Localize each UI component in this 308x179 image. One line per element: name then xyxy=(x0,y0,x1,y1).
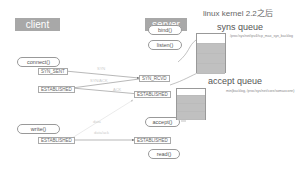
client-state-established: ESTABLISHED xyxy=(38,86,75,93)
connect-call: connect() xyxy=(17,57,60,67)
data-ack-label: data/ack xyxy=(94,130,109,135)
syn-arrow xyxy=(65,71,139,78)
write-call: write() xyxy=(17,124,60,134)
syns-queue xyxy=(196,33,226,73)
synrcvd-connector xyxy=(170,72,200,85)
accept-queue xyxy=(176,88,206,120)
server-state-established-2: ESTABLISHED xyxy=(134,137,171,144)
server-state-established: ESTABLISHED xyxy=(134,91,171,98)
accept-queue-title: accept queue xyxy=(208,76,262,86)
bind-call: bind() xyxy=(148,25,182,35)
data-label: data xyxy=(93,119,101,124)
syns-queue-title: syns queue xyxy=(217,22,263,32)
client-state-established-2: ESTABLISHED xyxy=(38,137,75,144)
accept-queue-note: min(backlog, /proc/sys/net/core/somaxcon… xyxy=(226,89,294,93)
ack-arrow xyxy=(72,88,139,94)
server-state-syn-rcvd: SYN_RCVD xyxy=(139,75,170,82)
diagram-title: linux kernel 2.2之后 xyxy=(203,7,273,18)
read-call: read() xyxy=(148,149,180,159)
client-header: client xyxy=(15,18,60,31)
synack-label: SYN/ACK xyxy=(90,78,108,83)
syn-label: SYN xyxy=(97,66,105,71)
syns-queue-note: /proc/sys/net/ipv4/tcp_max_syn_backlog xyxy=(230,34,293,38)
accept-call: accept() xyxy=(145,117,180,127)
client-state-syn-sent: SYN_SENT xyxy=(38,68,68,75)
listen-call: listen() xyxy=(148,40,182,50)
ack-label: ACK xyxy=(113,87,121,92)
